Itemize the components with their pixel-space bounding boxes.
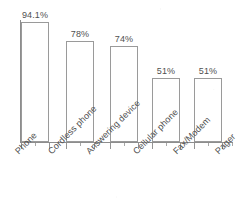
bar-value-label: 74%	[109, 34, 139, 44]
axis-tick	[110, 143, 111, 149]
axis-tick	[194, 143, 195, 149]
axis-tick	[152, 143, 153, 149]
bar-value-label: 51%	[193, 66, 223, 76]
bar-value-label: 94.1%	[17, 10, 53, 20]
bar	[21, 22, 49, 142]
plot-area: 94.1%78%74%51%51%28% PhoneCordless phone…	[0, 0, 243, 224]
axis-tick-minor	[80, 143, 81, 146]
axis-tick-minor	[35, 143, 36, 146]
bar-value-label: 51%	[151, 66, 181, 76]
bar-value-label: 78%	[65, 29, 95, 39]
axis-tick-minor	[208, 143, 209, 146]
axis-tick-minor	[124, 143, 125, 146]
axis-tick-minor	[166, 143, 167, 146]
axis-tick	[66, 143, 67, 149]
bar-chart: 94.1%78%74%51%51%28% PhoneCordless phone…	[0, 0, 243, 224]
